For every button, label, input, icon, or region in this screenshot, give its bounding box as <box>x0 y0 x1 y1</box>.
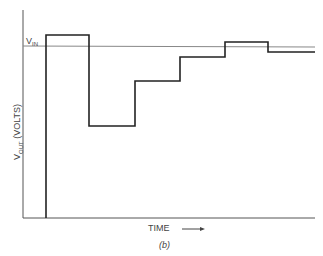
vin-reference-line <box>23 46 315 47</box>
y-axis-label: VOUT (VOLTS) <box>12 82 24 182</box>
arrowhead-icon <box>200 227 205 231</box>
vout-step-waveform <box>46 35 315 218</box>
vin-label: VIN <box>26 36 38 47</box>
figure-caption: (b) <box>159 240 170 250</box>
x-axis-label: TIME <box>148 223 170 233</box>
waveform-diagram <box>0 0 323 256</box>
